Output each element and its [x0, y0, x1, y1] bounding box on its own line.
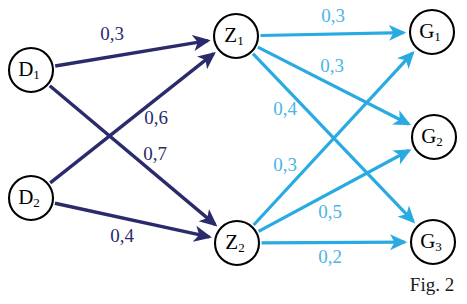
edges-layer — [50, 33, 414, 243]
graph-canvas: 0,30,70,60,40,30,30,40,30,50,2 D1D2Z1Z2G… — [0, 0, 467, 304]
edge-weight-z2-g3: 0,2 — [318, 246, 342, 267]
node-g2[interactable]: G2 — [412, 115, 456, 159]
node-d1[interactable]: D1 — [9, 48, 53, 92]
edge-weight-z1-g2: 0,3 — [320, 55, 344, 76]
node-z2[interactable]: Z2 — [215, 221, 259, 265]
edge-weight-z2-g2: 0,5 — [318, 201, 342, 222]
figure-container: 0,30,70,60,40,30,30,40,30,50,2 D1D2Z1Z2G… — [0, 0, 467, 304]
edge-weight-z1-g1: 0,3 — [321, 5, 345, 26]
node-g3[interactable]: G3 — [411, 220, 455, 264]
edge-weight-d2-z2: 0,4 — [110, 225, 134, 246]
edge-d1-to-z1 — [55, 41, 208, 66]
node-g1[interactable]: G1 — [410, 10, 454, 54]
edge-weight-z2-g1: 0,3 — [273, 154, 297, 175]
edge-weight-d1-z1: 0,3 — [100, 23, 124, 44]
edge-z1-to-g1 — [260, 33, 403, 36]
edge-d1-to-z2 — [50, 86, 215, 225]
figure-caption: Fig. 2 — [410, 274, 454, 295]
node-d2[interactable]: D2 — [9, 176, 53, 220]
edge-z2-to-g3 — [262, 242, 405, 243]
edge-weight-z1-g3: 0,4 — [273, 98, 297, 119]
edge-d2-to-z1 — [50, 54, 213, 183]
edge-weight-d1-z2: 0,7 — [143, 143, 167, 164]
edge-weight-d2-z1: 0,6 — [144, 107, 168, 128]
node-z1[interactable]: Z1 — [214, 14, 258, 58]
nodes-layer: D1D2Z1Z2G1G2G3 — [9, 10, 456, 265]
